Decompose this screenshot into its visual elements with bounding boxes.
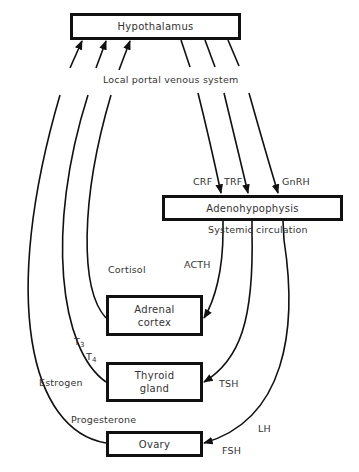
adenohypophysis-box: Adenohypophysis: [162, 195, 343, 221]
thyroid-gland-box: Thyroid gland: [106, 362, 203, 402]
ovary-box: Ovary: [106, 431, 203, 457]
adrenal-cortex-box: Adrenal cortex: [106, 295, 203, 336]
gnrh-arrow: [249, 93, 278, 193]
t4-subscript: 4: [92, 356, 97, 364]
gnrh-line-upper: [228, 40, 239, 66]
estrogen-progesterone-curve: [28, 95, 106, 443]
progesterone-label: Progesterone: [71, 414, 136, 425]
feedback-arrow-t3t4-upper: [96, 41, 106, 68]
thyroid-label-line1: Thyroid: [135, 369, 175, 382]
t3-label: T3: [74, 336, 85, 349]
ovary-label: Ovary: [139, 438, 170, 451]
hypothalamus-box: Hypothalamus: [70, 13, 241, 40]
cortisol-label: Cortisol: [108, 264, 146, 275]
crf-line-upper: [181, 40, 190, 67]
trf-line-upper: [205, 40, 215, 67]
adenohypophysis-label: Adenohypophysis: [206, 202, 299, 215]
tsh-label: TSH: [219, 378, 239, 389]
local-portal-label: Local portal venous system: [103, 74, 238, 85]
adrenal-label-line1: Adrenal: [134, 303, 174, 316]
systemic-circulation-label: Systemic circulation: [208, 224, 308, 235]
t3-subscript: 3: [80, 341, 85, 349]
t4-label: T4: [86, 351, 97, 364]
trf-label: TRF: [224, 176, 242, 187]
adrenal-label-line2: cortex: [138, 316, 171, 329]
gnrh-label: GnRH: [282, 176, 310, 187]
lh-fsh-arrow: [204, 221, 289, 443]
lh-label: LH: [258, 423, 271, 434]
thyroid-label-line2: gland: [140, 382, 169, 395]
estrogen-label: Estrogen: [39, 377, 83, 388]
cortisol-curve: [87, 95, 111, 318]
feedback-arrow-estrogen-upper: [70, 41, 82, 68]
endocrine-feedback-diagram: Hypothalamus Adenohypophysis Adrenal cor…: [0, 0, 359, 472]
fsh-label: FSH: [222, 445, 241, 456]
crf-label: CRF: [193, 176, 212, 187]
acth-label: ACTH: [184, 259, 211, 270]
feedback-arrow-cortisol-upper: [119, 41, 130, 70]
hypothalamus-label: Hypothalamus: [117, 20, 193, 33]
